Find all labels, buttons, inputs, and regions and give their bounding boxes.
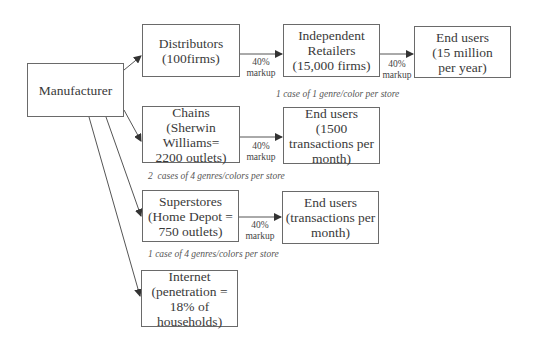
note-independent-retailers: 1 case of 1 genre/color per store bbox=[276, 89, 399, 99]
arrow-manufacturer-to-internet bbox=[89, 117, 140, 296]
distribution-channel-diagram: Manufacturer Distributors (100firms) Ind… bbox=[0, 0, 541, 350]
node-label: End users (15 million per year) bbox=[432, 30, 492, 75]
markup-word: markup bbox=[241, 152, 281, 163]
markup-label-distributors: 40% markup bbox=[241, 57, 281, 79]
markup-percent: 40% bbox=[241, 141, 281, 152]
node-label: Distributors (100firms) bbox=[159, 36, 224, 66]
markup-word: markup bbox=[241, 68, 281, 79]
markup-percent: 40% bbox=[241, 57, 281, 68]
markup-word: markup bbox=[377, 70, 417, 81]
markup-label-chains: 40% markup bbox=[241, 141, 281, 163]
markup-word: markup bbox=[240, 231, 280, 242]
node-label: Chains (Sherwin Williams= 2200 outlets) bbox=[156, 105, 227, 165]
note-superstores: 1 case of 4 genres/colors per store bbox=[148, 249, 279, 259]
arrow-manufacturer-to-chains bbox=[124, 110, 141, 141]
node-label: Independent Retailers (15,000 firms) bbox=[293, 28, 371, 73]
arrow-manufacturer-to-distributors bbox=[124, 56, 141, 70]
markup-percent: 40% bbox=[240, 220, 280, 231]
node-label: End users (transactions per month) bbox=[286, 195, 376, 240]
markup-label-retailers: 40% markup bbox=[377, 59, 417, 81]
node-end-users-chains: End users (1500 transactions per month) bbox=[283, 107, 380, 164]
node-internet: Internet (penetration = 18% of household… bbox=[141, 270, 238, 327]
node-independent-retailers: Independent Retailers (15,000 firms) bbox=[283, 24, 380, 77]
node-label: End users (1500 transactions per month) bbox=[289, 106, 374, 166]
note-chains: 2 cases of 4 genres/colors per store bbox=[148, 171, 285, 181]
markup-label-superstores: 40% markup bbox=[240, 220, 280, 242]
node-label: Manufacturer bbox=[39, 83, 112, 98]
node-distributors: Distributors (100firms) bbox=[142, 24, 240, 77]
node-chains: Chains (Sherwin Williams= 2200 outlets) bbox=[142, 106, 240, 163]
node-end-users-superstores: End users (transactions per month) bbox=[282, 191, 379, 244]
node-end-users-retail: End users (15 million per year) bbox=[414, 26, 511, 78]
node-label: Internet (penetration = 18% of household… bbox=[151, 269, 227, 329]
node-superstores: Superstores (Home Depot = 750 outlets) bbox=[142, 190, 239, 242]
markup-percent: 40% bbox=[377, 59, 417, 70]
node-manufacturer: Manufacturer bbox=[27, 63, 124, 117]
node-label: Superstores (Home Depot = 750 outlets) bbox=[148, 194, 233, 239]
